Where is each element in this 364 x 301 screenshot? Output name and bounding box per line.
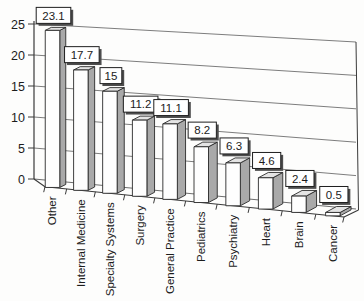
bar-internal-medicine bbox=[74, 67, 95, 191]
value-label-text: 8.2 bbox=[194, 124, 210, 136]
bar-side-face bbox=[88, 67, 95, 191]
bar-psychiatry bbox=[226, 158, 250, 206]
bar-front-face bbox=[103, 91, 118, 193]
value-label-text: 11.1 bbox=[160, 102, 182, 114]
category-label-other: Other bbox=[47, 196, 59, 225]
value-label-specialty-systems: 15 bbox=[100, 68, 124, 86]
bar-front-face bbox=[292, 196, 307, 212]
y-tick-label: 25 bbox=[11, 18, 25, 32]
value-label-text: 11.2 bbox=[130, 98, 152, 110]
value-label-cancer: 0.5 bbox=[320, 186, 351, 204]
value-label-text: 0.5 bbox=[326, 189, 342, 201]
y-tick-label: 20 bbox=[11, 49, 25, 63]
value-label-text: 6.3 bbox=[226, 140, 242, 152]
bar-heart bbox=[258, 172, 282, 209]
y-tick-label: 0 bbox=[18, 173, 25, 187]
bar-other bbox=[45, 27, 66, 187]
bar-front-face bbox=[258, 178, 273, 209]
value-label-psychiatry: 6.3 bbox=[220, 138, 251, 156]
category-label-internal-medicine: Internal Medicine bbox=[75, 199, 87, 287]
category-label-cancer: Cancer bbox=[327, 225, 339, 262]
bar-side-face bbox=[273, 172, 283, 209]
bar-side-face bbox=[240, 158, 249, 206]
wall-right-edge bbox=[356, 42, 359, 210]
value-label-text: 23.1 bbox=[42, 10, 64, 22]
y-tick-label: 10 bbox=[11, 111, 25, 125]
value-label-heart: 4.6 bbox=[253, 152, 284, 170]
y-axis: 0510152025 bbox=[11, 18, 34, 187]
category-label-brain: Brain bbox=[293, 221, 305, 248]
bar-front-face bbox=[163, 124, 178, 199]
value-label-other: 23.1 bbox=[36, 7, 73, 25]
bar-side-face bbox=[147, 116, 155, 196]
category-label-pediatrics: Pediatrics bbox=[195, 211, 207, 262]
bar-cancer bbox=[326, 206, 351, 215]
value-label-internal-medicine: 17.7 bbox=[65, 47, 102, 65]
bar-surgery bbox=[132, 116, 154, 196]
bar-pediatrics bbox=[194, 142, 217, 202]
value-label-pediatrics: 8.2 bbox=[188, 122, 219, 140]
value-label-text: 17.7 bbox=[71, 49, 93, 61]
value-label-general-practice: 11.1 bbox=[154, 100, 191, 118]
value-label-text: 15 bbox=[105, 70, 118, 82]
bar-front-face bbox=[45, 30, 60, 187]
chart-canvas: 0510152025OtherInternal MedicineSpecialt… bbox=[0, 0, 364, 301]
category-label-specialty-systems: Specialty Systems bbox=[104, 202, 116, 296]
bar-general-practice bbox=[163, 120, 186, 200]
value-label-text: 4.6 bbox=[259, 155, 275, 167]
bar-side-face bbox=[177, 120, 185, 200]
bar-chart-figure: 0510152025OtherInternal MedicineSpecialt… bbox=[0, 0, 364, 301]
bar-brain bbox=[292, 190, 317, 212]
bar-front-face bbox=[226, 163, 241, 206]
y-tick-label: 15 bbox=[11, 80, 25, 94]
category-label-psychiatry: Psychiatry bbox=[227, 215, 239, 268]
bar-front-face bbox=[74, 70, 89, 190]
category-label-surgery: Surgery bbox=[134, 205, 146, 246]
category-label-heart: Heart bbox=[260, 217, 272, 246]
bar-front-face bbox=[194, 147, 209, 203]
value-label-brain: 2.4 bbox=[286, 170, 317, 188]
value-label-text: 2.4 bbox=[292, 173, 309, 185]
y-tick-label: 5 bbox=[18, 142, 25, 156]
bar-side-face bbox=[209, 142, 218, 202]
bar-specialty-systems bbox=[103, 88, 125, 194]
bar-front-face bbox=[326, 212, 341, 215]
bar-front-face bbox=[132, 120, 147, 196]
category-label-general-practice: General Practice bbox=[164, 208, 176, 294]
